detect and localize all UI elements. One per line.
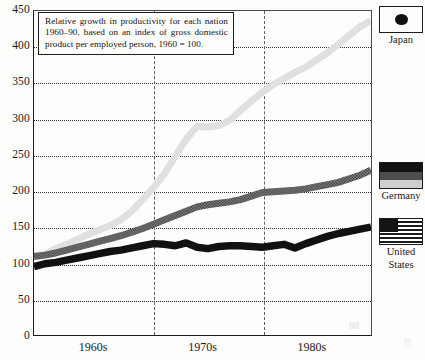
y-axis-tick-label: 200 bbox=[0, 185, 30, 197]
series-layer bbox=[34, 11, 371, 335]
chart-figure: 050100150200250300350400450 bbox=[0, 0, 425, 360]
japan-flag-icon bbox=[379, 6, 423, 33]
series-line-germany bbox=[34, 170, 371, 256]
united-states-flag-icon bbox=[379, 218, 423, 245]
legend-label-united-states-line1: United bbox=[377, 246, 425, 258]
y-axis-tick-label: 400 bbox=[0, 40, 30, 52]
y-axis: 050100150200250300350400450 bbox=[0, 0, 30, 360]
germany-band-black bbox=[380, 163, 422, 172]
scan-artifact bbox=[404, 338, 411, 347]
legend-item-united-states: United States bbox=[377, 218, 425, 271]
y-axis-tick-label: 300 bbox=[0, 113, 30, 125]
caption-text: Relative growth in productivity for each… bbox=[45, 16, 228, 50]
caption-box: Relative growth in productivity for each… bbox=[38, 12, 234, 55]
united-states-canton-icon bbox=[380, 219, 398, 232]
scan-artifact bbox=[349, 322, 359, 329]
y-axis-tick-label: 100 bbox=[0, 258, 30, 270]
y-axis-tick-label: 450 bbox=[0, 4, 30, 16]
series-line-japan bbox=[34, 20, 371, 255]
germany-band-red bbox=[380, 172, 422, 180]
japan-sun-icon bbox=[395, 14, 408, 25]
legend-item-germany: Germany bbox=[377, 162, 425, 202]
germany-band-gold bbox=[380, 180, 422, 188]
legend-label-united-states-line2: States bbox=[377, 259, 425, 271]
x-axis: 1960s1970s1980s bbox=[33, 340, 372, 360]
legend-item-japan: Japan bbox=[377, 6, 425, 46]
y-axis-tick-label: 250 bbox=[0, 149, 30, 161]
legend-label-germany: Germany bbox=[377, 190, 425, 202]
y-axis-tick-label: 0 bbox=[0, 330, 30, 342]
y-axis-tick-label: 350 bbox=[0, 76, 30, 88]
x-axis-tick-label: 1970s bbox=[188, 340, 217, 354]
plot-area bbox=[33, 10, 372, 336]
legend-label-japan: Japan bbox=[377, 34, 425, 46]
y-axis-tick-label: 150 bbox=[0, 221, 30, 233]
x-axis-tick-label: 1980s bbox=[298, 340, 327, 354]
legend: Japan Germany United States bbox=[377, 0, 425, 360]
germany-flag-icon bbox=[379, 162, 423, 189]
x-axis-tick-label: 1960s bbox=[79, 340, 108, 354]
y-axis-tick-label: 50 bbox=[0, 294, 30, 306]
